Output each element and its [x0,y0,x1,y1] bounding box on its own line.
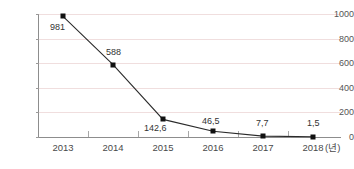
y-tick-label-400: 400 [320,84,354,93]
data-point-2014 [111,62,116,67]
data-point-2017 [261,134,266,139]
y-tick-label-200: 200 [320,108,354,117]
y-tick-mark-400 [36,88,39,89]
y-tick-label-0: 0 [320,133,354,142]
gridline-1000 [38,14,340,15]
x-tick-label-2016: 2016 [193,142,233,153]
x-tick-label-2014: 2014 [93,142,133,153]
gridline-400 [38,88,340,89]
data-label-2016: 46,5 [202,117,220,126]
x-tick-mark-2 [138,131,139,137]
data-label-2015: 142,6 [144,124,167,133]
x-tick-label-2013: 2013 [43,142,83,153]
y-tick-label-800: 800 [320,35,354,44]
x-tick-mark-1 [88,131,89,137]
gridline-800 [38,39,340,40]
data-point-2013 [61,14,66,19]
y-tick-mark-0 [36,137,39,138]
gridline-200 [38,112,340,113]
x-tick-label-2015: 2015 [143,142,183,153]
x-axis-unit-label: (년) [325,142,340,153]
y-tick-mark-200 [36,112,39,113]
x-tick-mark-4 [238,131,239,137]
y-tick-mark-600 [36,63,39,64]
y-tick-mark-800 [36,39,39,40]
x-tick-label-2017: 2017 [243,142,283,153]
data-point-2016 [211,129,216,134]
y-tick-label-600: 600 [320,59,354,68]
y-tick-label-1000: 1000 [320,10,354,19]
x-axis-line [38,137,341,138]
data-point-2018 [311,134,316,139]
data-point-2015 [161,117,166,122]
x-tick-mark-5 [288,131,289,137]
data-label-2018: 1,5 [307,119,320,128]
gridline-600 [38,63,340,64]
x-tick-mark-3 [188,131,189,137]
data-label-2014: 588 [106,48,121,57]
data-label-2017: 7,7 [256,119,269,128]
y-tick-mark-1000 [36,14,39,15]
y-axis-line [38,14,39,138]
data-label-2013: 981 [50,23,65,32]
line-chart: 1000 800 600 400 200 0 981 588 142,6 46,… [0,0,354,169]
